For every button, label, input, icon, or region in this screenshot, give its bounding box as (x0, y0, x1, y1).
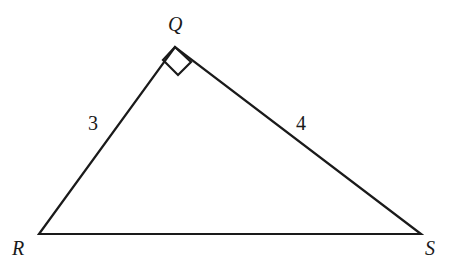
geometry-figure: Q R S 3 4 (0, 0, 458, 272)
vertex-label-s: S (425, 238, 435, 258)
side-length-label-rq: 3 (88, 113, 98, 133)
side-length-label-qs: 4 (296, 113, 306, 133)
vertex-label-r: R (12, 238, 24, 258)
triangle-drawing (0, 0, 458, 272)
vertex-label-q: Q (168, 14, 182, 34)
right-angle-marker-icon (163, 47, 191, 75)
triangle-outline (39, 47, 421, 234)
